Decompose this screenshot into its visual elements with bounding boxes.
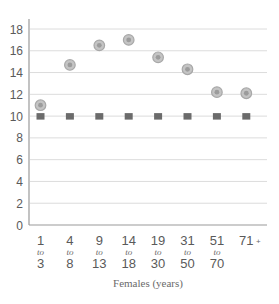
x-tick-from: 4: [66, 233, 73, 248]
x-tick-label: 1to3: [37, 233, 45, 271]
square-point: [37, 113, 45, 120]
circle-point: [123, 35, 134, 46]
circle-point: [241, 88, 252, 99]
y-tick-label: 2: [16, 197, 23, 211]
y-tick-label: 4: [16, 175, 23, 189]
y-tick-label: 10: [10, 110, 24, 124]
x-tick-to: 70: [210, 256, 224, 271]
circle-point: [182, 64, 193, 75]
x-tick-from: 19: [151, 233, 165, 248]
circle-point-inner: [185, 67, 190, 72]
x-tick-from: 71: [239, 233, 253, 248]
x-tick-label: 71+: [239, 233, 261, 248]
x-tick-label: 9to13: [92, 233, 106, 271]
x-tick-suffix: +: [256, 237, 261, 246]
data-points: [35, 35, 251, 120]
x-tick-to: 13: [92, 256, 106, 271]
y-tick-label: 6: [16, 153, 23, 167]
x-tick-label: 31to50: [180, 233, 194, 271]
x-tick-to: 3: [37, 256, 44, 271]
y-tick-label: 14: [10, 66, 24, 80]
y-axis-tick-labels: 024681012141618: [10, 23, 24, 233]
y-tick-label: 8: [16, 131, 23, 145]
circle-point-inner: [126, 37, 131, 42]
circle-point: [153, 52, 164, 63]
x-tick-to: 50: [180, 256, 194, 271]
x-tick-from: 31: [180, 233, 194, 248]
square-point: [125, 113, 133, 120]
circle-point-inner: [215, 90, 220, 95]
x-tick-to: 18: [121, 256, 135, 271]
y-tick-label: 16: [10, 44, 24, 58]
x-tick-from: 9: [96, 233, 103, 248]
x-axis-tick-labels: 1to34to89to1314to1819to3031to5051to7071+: [37, 233, 261, 271]
circle-point-inner: [156, 55, 161, 60]
square-point: [66, 113, 74, 120]
circle-point-inner: [68, 63, 73, 68]
square-point: [95, 113, 103, 120]
circle-point-inner: [97, 43, 102, 48]
square-point: [154, 113, 162, 120]
x-tick-to: 30: [151, 256, 165, 271]
y-tick-label: 18: [10, 23, 24, 37]
gridlines: [30, 29, 267, 203]
x-tick-to: 8: [66, 256, 73, 271]
circle-point-inner: [244, 91, 249, 96]
x-tick-label: 4to8: [66, 233, 74, 271]
x-tick-from: 14: [121, 233, 135, 248]
circle-point: [65, 60, 76, 71]
square-point: [184, 113, 192, 120]
y-tick-label: 0: [16, 219, 23, 233]
circle-point: [212, 87, 223, 98]
x-tick-from: 51: [210, 233, 224, 248]
x-tick-label: 51to70: [210, 233, 224, 271]
circle-point-inner: [38, 103, 43, 108]
square-point: [213, 113, 221, 120]
circle-point: [35, 100, 46, 111]
x-axis-title: Females (years): [113, 277, 183, 290]
circle-point: [94, 40, 105, 51]
y-tick-label: 12: [10, 88, 24, 102]
x-tick-from: 1: [37, 233, 44, 248]
square-point: [242, 113, 250, 120]
x-tick-label: 19to30: [151, 233, 165, 271]
chart: 024681012141618 1to34to89to1314to1819to3…: [0, 0, 279, 304]
x-tick-label: 14to18: [121, 233, 135, 271]
